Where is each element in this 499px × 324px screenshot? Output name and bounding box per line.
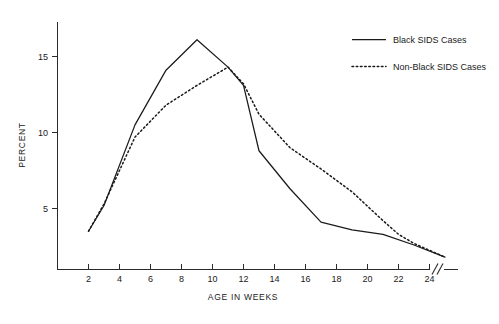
axis-group <box>58 22 459 275</box>
x-tick-label-16: 16 <box>300 274 310 284</box>
x-tick-label-14: 14 <box>269 274 279 284</box>
y-tick-group: 15 10 5 <box>38 52 58 214</box>
x-tick-label-22: 22 <box>393 274 403 284</box>
x-axis-title: AGE IN WEEKS <box>208 292 278 302</box>
y-tick-label-10: 10 <box>38 128 48 138</box>
series-black-sids-cases <box>89 40 446 257</box>
legend: Black SIDS Cases Non-Black SIDS Cases <box>352 35 487 72</box>
x-tick-label-8: 8 <box>179 274 184 284</box>
series-non-black-sids-cases <box>89 67 446 257</box>
legend-label-non-black-sids-cases: Non-Black SIDS Cases <box>393 62 487 72</box>
y-axis-title: PERCENT <box>17 122 27 168</box>
x-tick-label-20: 20 <box>362 274 372 284</box>
chart-figure: 15 10 5 2 4 6 8 10 12 14 16 18 <box>0 0 499 324</box>
y-tick-label-5: 5 <box>43 204 48 214</box>
x-tick-label-18: 18 <box>331 274 341 284</box>
y-tick-label-15: 15 <box>38 52 48 62</box>
x-tick-label-24: 24 <box>424 274 434 284</box>
legend-label-black-sids-cases: Black SIDS Cases <box>393 35 467 45</box>
x-tick-label-6: 6 <box>148 274 153 284</box>
x-tick-label-12: 12 <box>238 274 248 284</box>
x-tick-label-10: 10 <box>207 274 217 284</box>
x-tick-label-4: 4 <box>117 274 122 284</box>
x-tick-label-2: 2 <box>86 274 91 284</box>
x-tick-group: 2 4 6 8 10 12 14 16 18 20 22 24 <box>86 264 435 284</box>
series-group <box>89 40 446 257</box>
sids-percent-by-age-line-chart: 15 10 5 2 4 6 8 10 12 14 16 18 <box>0 0 499 324</box>
axis-break-icon <box>432 264 443 275</box>
